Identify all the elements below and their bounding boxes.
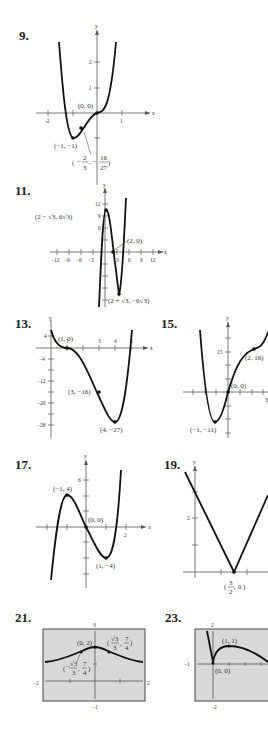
svg-text:(−1, −1): (−1, −1) bbox=[54, 142, 78, 150]
svg-text:-2: -2 bbox=[45, 118, 50, 124]
svg-text:y: y bbox=[226, 315, 229, 321]
svg-text:(0, 0): (0, 0) bbox=[78, 102, 94, 110]
svg-text:(0, 0): (0, 0) bbox=[231, 382, 247, 390]
svg-text:,: , bbox=[234, 583, 236, 591]
svg-text:0: 0 bbox=[238, 583, 242, 591]
svg-text:x: x bbox=[164, 249, 167, 255]
svg-text:−2: −2 bbox=[33, 680, 39, 686]
svg-text:3: 3 bbox=[98, 338, 101, 344]
svg-text:6: 6 bbox=[78, 477, 81, 483]
svg-text:(2 − √3, 6√3): (2 − √3, 6√3) bbox=[35, 213, 73, 221]
svg-text:(0, 0): (0, 0) bbox=[215, 667, 231, 675]
svg-text:(1, −4): (1, −4) bbox=[96, 562, 116, 570]
svg-text:4: 4 bbox=[83, 669, 87, 677]
svg-text:2: 2 bbox=[211, 622, 214, 628]
svg-text:27: 27 bbox=[100, 164, 108, 172]
svg-text:6: 6 bbox=[128, 257, 131, 263]
svg-text:−20: −20 bbox=[37, 400, 46, 406]
svg-text:2: 2 bbox=[147, 680, 150, 686]
svg-text:1: 1 bbox=[89, 85, 92, 91]
svg-text:15: 15 bbox=[217, 349, 223, 355]
svg-text:4: 4 bbox=[125, 644, 129, 652]
svg-text:(0, 2): (0, 2) bbox=[77, 639, 93, 647]
svg-text:(: ( bbox=[224, 583, 227, 591]
svg-text:3: 3 bbox=[116, 257, 119, 263]
svg-text:,: , bbox=[120, 640, 122, 648]
svg-text:(1, 1): (1, 1) bbox=[222, 637, 238, 645]
svg-text:x: x bbox=[148, 524, 151, 530]
svg-text:x: x bbox=[150, 345, 153, 351]
svg-text:4: 4 bbox=[44, 333, 47, 339]
svg-text:x: x bbox=[152, 110, 155, 116]
svg-text:3: 3 bbox=[265, 397, 268, 403]
svg-text:−12: −12 bbox=[51, 257, 60, 263]
svg-text:y: y bbox=[103, 182, 106, 188]
svg-text:−: − bbox=[77, 158, 81, 166]
graph-problem-15: y 3 15 (2, 16) (0, 0) (−1, −11) bbox=[155, 310, 268, 450]
svg-text:9: 9 bbox=[98, 213, 101, 219]
svg-text:(2 + √3, −6√3): (2 + √3, −6√3) bbox=[108, 297, 150, 305]
svg-text:(0, 0): (0, 0) bbox=[88, 516, 104, 524]
graph-problem-17: x y 2 6 (−1, 4) (0, 0) (1, −4) bbox=[0, 450, 155, 590]
svg-text:−4: −4 bbox=[39, 356, 45, 362]
svg-text:(−1, −11): (−1, −11) bbox=[190, 426, 217, 434]
graph-problem-21: 3 −2 2 −1 (0, 2) ( √3 3 , 7 4 ) ( − √3 3… bbox=[0, 600, 155, 730]
svg-text:4: 4 bbox=[114, 338, 117, 344]
svg-text:√3: √3 bbox=[111, 635, 119, 643]
svg-text:3: 3 bbox=[113, 644, 117, 652]
svg-text:): ) bbox=[243, 583, 246, 591]
svg-text:(2, 16): (2, 16) bbox=[245, 354, 264, 362]
svg-text:16: 16 bbox=[100, 154, 108, 162]
svg-text:y: y bbox=[84, 453, 87, 459]
graph-problem-23: 2 −1 −2 (1, 1) (0, 0) bbox=[155, 600, 268, 730]
svg-text:(3, −16): (3, −16) bbox=[68, 388, 91, 396]
svg-text:1: 1 bbox=[120, 118, 123, 124]
svg-text:−3: −3 bbox=[88, 257, 94, 263]
svg-text:2: 2 bbox=[229, 588, 233, 596]
graph-problem-19: y 2 ( 3 2 , 0 ) bbox=[155, 450, 268, 600]
svg-text:7: 7 bbox=[83, 660, 87, 668]
svg-text:y: y bbox=[193, 459, 196, 465]
svg-text:3: 3 bbox=[93, 622, 96, 628]
svg-text:(4, −27): (4, −27) bbox=[100, 426, 123, 434]
svg-text:2: 2 bbox=[187, 515, 190, 521]
graph-problem-9: x y -2 1 1 2 (0, 0) (−1, −1) ( − 2 3 , −… bbox=[0, 0, 268, 190]
svg-text:3: 3 bbox=[229, 579, 233, 587]
svg-text:(−1, 4): (−1, 4) bbox=[53, 485, 73, 493]
svg-text:2: 2 bbox=[124, 532, 127, 538]
svg-text:3: 3 bbox=[83, 164, 87, 172]
svg-text:, −: , − bbox=[89, 158, 97, 166]
svg-text:√3: √3 bbox=[70, 660, 78, 668]
svg-text:−1: −1 bbox=[184, 661, 190, 667]
svg-text:−6: −6 bbox=[76, 257, 82, 263]
svg-text:7: 7 bbox=[125, 635, 129, 643]
svg-text:−12: −12 bbox=[37, 378, 46, 384]
svg-text:y: y bbox=[49, 315, 52, 321]
svg-text:−28: −28 bbox=[37, 422, 46, 428]
svg-text:,: , bbox=[78, 665, 80, 673]
svg-text:2: 2 bbox=[83, 154, 87, 162]
svg-text:2: 2 bbox=[89, 59, 92, 65]
svg-text:(2, 0): (2, 0) bbox=[127, 237, 143, 245]
svg-text:9: 9 bbox=[140, 257, 143, 263]
svg-text:(1, 0): (1, 0) bbox=[58, 335, 74, 343]
svg-text:12: 12 bbox=[95, 201, 101, 207]
svg-text:−1: −1 bbox=[92, 704, 98, 710]
svg-text:−9: −9 bbox=[64, 257, 70, 263]
svg-text:3: 3 bbox=[72, 669, 76, 677]
graph-problem-11: x y −12 −9 −6 −3 3 6 9 12 12 9 6 (2 − √3… bbox=[0, 180, 268, 320]
svg-text:6: 6 bbox=[98, 225, 101, 231]
svg-text:12: 12 bbox=[150, 257, 156, 263]
svg-text:y: y bbox=[95, 23, 98, 29]
svg-text:(: ( bbox=[72, 159, 75, 167]
graph-problem-13: x y 1 3 4 5 4 −4 −12 −20 −28 (1, 0) (3, … bbox=[0, 310, 155, 450]
svg-text:−2: −2 bbox=[211, 704, 217, 710]
svg-text:): ) bbox=[108, 159, 111, 167]
